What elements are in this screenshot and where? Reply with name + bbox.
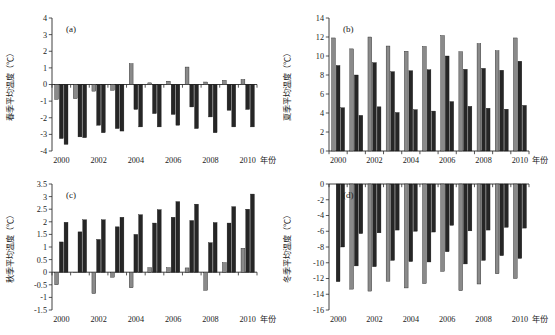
bar (97, 85, 101, 126)
bar (250, 85, 254, 127)
bar (232, 207, 236, 273)
chart-panel-b: 02468101214200020022004200620082010年份(b)… (277, 2, 555, 174)
bar (190, 221, 194, 273)
bar (153, 85, 157, 114)
x-axis-unit-label: 年份 (260, 314, 276, 324)
bar (92, 272, 96, 293)
bar (368, 37, 372, 151)
bar (377, 107, 381, 151)
bar (518, 184, 522, 258)
bar (213, 223, 217, 273)
bar (404, 51, 408, 151)
y-tick-label: -4 (40, 147, 47, 156)
y-tick-label: -2 (317, 196, 324, 205)
bar (139, 215, 143, 272)
x-tick-label: 2002 (366, 315, 382, 324)
bar (115, 85, 119, 129)
bar-group (55, 194, 255, 294)
bar (59, 85, 63, 139)
bar (83, 220, 87, 272)
y-tick-label: -16 (313, 306, 324, 315)
bar (166, 81, 170, 84)
bar (500, 70, 504, 151)
bar (64, 85, 68, 145)
bar (377, 184, 381, 233)
bar (241, 248, 245, 272)
bar (341, 108, 345, 151)
bar (500, 184, 504, 256)
bar (166, 268, 170, 273)
y-tick-label: 0 (43, 80, 47, 89)
bar (459, 184, 463, 291)
y-tick-label: 3 (43, 193, 47, 202)
bar (101, 220, 105, 272)
bar (101, 85, 105, 133)
bar (190, 85, 194, 107)
bar (427, 70, 431, 151)
y-tick-label: 0.5 (37, 256, 47, 265)
bar (148, 268, 152, 273)
y-axis-title: 秋季平均温度（℃） (5, 211, 15, 283)
y-tick-label: 1 (43, 64, 47, 73)
bar (350, 49, 354, 151)
bar (373, 184, 377, 267)
bar (78, 85, 82, 137)
bar (55, 85, 59, 100)
bar (486, 108, 490, 151)
bar (477, 44, 481, 151)
x-tick-labels: 200020022004200620082010 (330, 156, 528, 165)
four-panel-seasonal-temperature-figure: -4-3-2-101234200020022004200620082010年份(… (0, 0, 555, 335)
bar (148, 83, 152, 85)
bar (246, 85, 250, 110)
bar (463, 184, 467, 264)
bar (359, 184, 363, 234)
y-tick-label: 2 (43, 218, 47, 227)
x-axis-ticks (52, 272, 257, 275)
bar (441, 184, 445, 271)
y-tick-label: -0.5 (34, 281, 47, 290)
x-tick-label: 2000 (330, 156, 346, 165)
x-tick-label: 2010 (239, 315, 255, 324)
y-tick-label: 2 (43, 47, 47, 56)
y-tick-label: 6 (320, 90, 324, 99)
panel-letter: (d) (343, 190, 354, 200)
bar (386, 46, 390, 151)
bar (468, 184, 472, 231)
x-axis-unit-label: 年份 (532, 314, 548, 324)
x-tick-label: 2006 (165, 315, 181, 324)
y-tick-label: 4 (43, 14, 47, 23)
chart-panel-d: -16-14-12-10-8-6-4-202000200220042006200… (277, 172, 555, 335)
y-tick-label: 10 (316, 52, 324, 61)
bar (78, 232, 82, 272)
x-tick-label: 2006 (439, 315, 455, 324)
bar (482, 184, 486, 260)
bar (134, 85, 138, 110)
bar (495, 184, 499, 274)
x-tick-label: 2000 (53, 156, 69, 165)
y-tick-label: -3 (40, 130, 47, 139)
x-tick-label: 2010 (239, 156, 255, 165)
y-tick-label: -6 (317, 227, 324, 236)
bar (523, 105, 527, 151)
bar (73, 272, 77, 273)
bar (336, 184, 340, 282)
bar (409, 71, 413, 151)
x-tick-labels: 200020022004200620082010 (330, 315, 528, 324)
bar (414, 184, 418, 231)
bar (477, 184, 481, 284)
bar (83, 85, 87, 138)
bar (409, 184, 413, 262)
y-tick-label: 1.5 (37, 230, 47, 239)
bar (432, 111, 436, 151)
bar (129, 64, 133, 85)
bar (185, 268, 189, 272)
bar (227, 85, 231, 111)
y-tick-label: -1 (40, 293, 47, 302)
x-tick-label: 2008 (475, 315, 491, 324)
x-tick-label: 2000 (53, 315, 69, 324)
bar (59, 242, 63, 272)
bar (495, 51, 499, 151)
bar (157, 210, 161, 273)
bar (504, 109, 508, 151)
bar (222, 80, 226, 84)
